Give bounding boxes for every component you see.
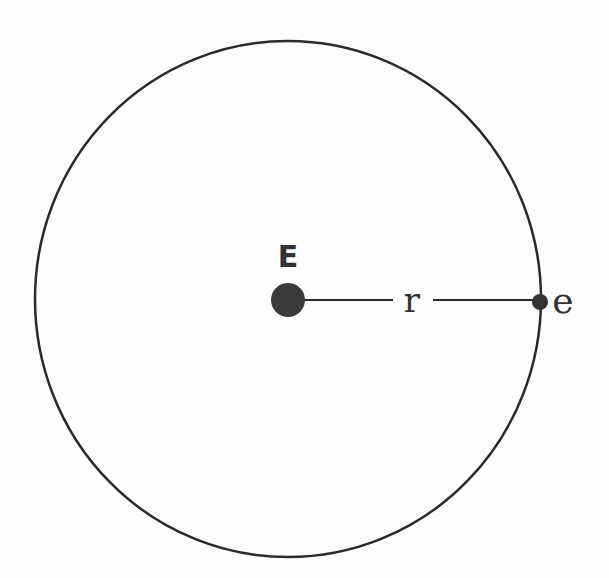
electron-dot — [532, 294, 548, 310]
radius-label: r — [404, 280, 421, 320]
orbit-diagram: E r e — [0, 0, 609, 578]
electron-label: e — [552, 280, 573, 321]
nucleus-dot — [271, 283, 305, 317]
nucleus-label: E — [278, 239, 299, 274]
